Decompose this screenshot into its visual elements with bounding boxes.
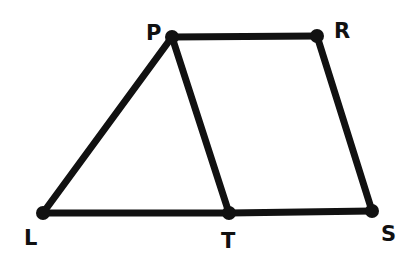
vertex-L	[36, 206, 50, 220]
segment-RS	[317, 36, 372, 211]
vertex-R	[310, 29, 324, 43]
geometry-diagram: P R L T S	[0, 0, 403, 257]
vertex-S	[365, 204, 379, 218]
vertex-P	[165, 30, 179, 44]
segment-ST	[229, 211, 372, 213]
segment-PR	[172, 36, 317, 37]
label-P: P	[146, 21, 161, 45]
vertex-T	[222, 206, 236, 220]
diagram-svg: P R L T S	[0, 0, 403, 257]
segment-LP	[43, 37, 172, 213]
label-S: S	[381, 222, 396, 246]
label-L: L	[24, 226, 37, 250]
label-R: R	[334, 19, 350, 43]
label-T: T	[221, 229, 236, 253]
segment-PT	[172, 37, 229, 213]
